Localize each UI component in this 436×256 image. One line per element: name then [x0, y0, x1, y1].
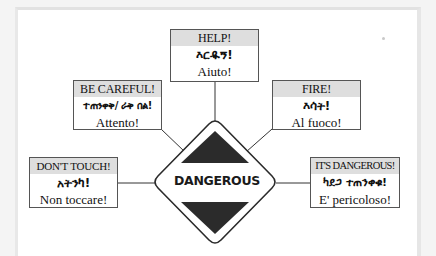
- box-its-dangerous: IT'S DANGEROUS! ካደጋ ተጠንቀቁ! E' pericoloso…: [310, 157, 400, 208]
- box-english: FIRE!: [273, 81, 360, 97]
- box-english: HELP!: [171, 30, 258, 46]
- box-italian: Al fuoco!: [273, 115, 360, 131]
- box-english: DON'T TOUCH!: [30, 158, 117, 174]
- box-amharic: እሳት!: [273, 97, 360, 115]
- box-italian: E' pericoloso!: [311, 192, 399, 208]
- box-amharic: እርዱኝ!: [171, 46, 258, 64]
- box-amharic: አትንካ!: [30, 174, 117, 192]
- connector-be-careful: [161, 129, 185, 152]
- box-english: BE CAREFUL!: [74, 81, 161, 97]
- box-be-careful: BE CAREFUL! ተጠንቀቅ/ ራቅ በል! Attento!: [73, 80, 162, 130]
- box-italian: Attento!: [74, 115, 161, 131]
- box-italian: Non toccare!: [30, 192, 117, 208]
- box-dont-touch: DON'T TOUCH! አትንካ! Non toccare!: [29, 157, 118, 208]
- box-amharic: ተጠንቀቅ/ ራቅ በል!: [74, 97, 161, 115]
- box-english: IT'S DANGEROUS!: [311, 158, 399, 174]
- box-italian: Aiuto!: [171, 64, 258, 80]
- box-amharic: ካደጋ ተጠንቀቁ!: [311, 174, 399, 192]
- box-help: HELP! እርዱኝ! Aiuto!: [170, 29, 259, 82]
- box-fire: FIRE! እሳት! Al fuoco!: [272, 80, 361, 130]
- sign-label: DANGEROUS: [157, 173, 277, 188]
- connector-fire: [246, 129, 272, 152]
